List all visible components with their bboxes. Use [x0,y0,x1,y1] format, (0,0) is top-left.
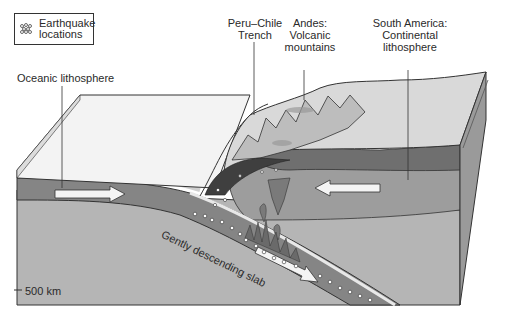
andes-label: Andes: Volcanic mountains [282,17,338,53]
earthquake-dots-icon [19,23,35,35]
continental-label-line3: lithosphere [368,41,452,53]
trench-label-line2: Trench [226,29,284,41]
volcanic-plume [286,107,314,113]
trench-label-line1: Peru–Chile [226,17,284,29]
continental-label-line1: South America: [368,17,452,29]
andes-label-line3: mountains [282,41,338,53]
volcanic-plume [272,140,292,146]
oceanic-lithosphere-label: Oceanic lithosphere [17,72,114,84]
andes-label-line1: Andes: [282,17,338,29]
legend-label: Earthquake locations [39,18,95,40]
legend-box: Earthquake locations [14,13,94,45]
legend-label-line2: locations [39,29,95,40]
continental-label-line2: Continental [368,29,452,41]
ocean-floor-surface [17,95,250,188]
trench-label: Peru–Chile Trench [226,17,284,41]
depth-label: 500 km [25,285,61,297]
continental-label: South America: Continental lithosphere [368,17,452,53]
andes-label-line2: Volcanic [282,29,338,41]
